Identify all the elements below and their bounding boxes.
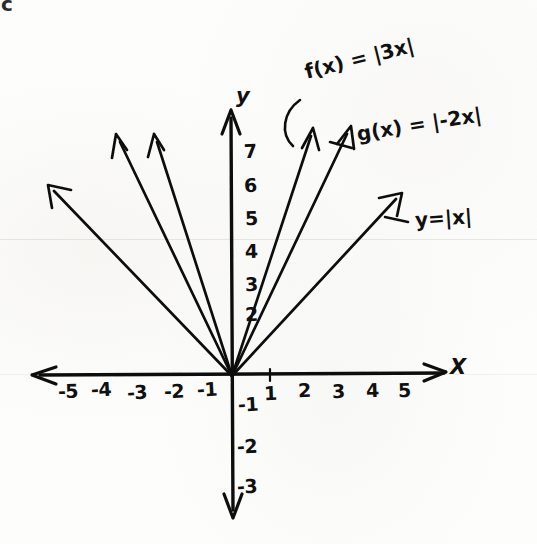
y-tick-neg-1: -1 — [238, 394, 259, 414]
leader-f — [285, 100, 300, 146]
x-tick-neg-4: -4 — [91, 379, 112, 399]
y-tick-2: 2 — [245, 305, 258, 324]
leader-yabs — [385, 217, 408, 222]
y-tick-3: 3 — [245, 275, 258, 294]
ray-y-left — [48, 185, 232, 376]
x-tick-4: 4 — [366, 381, 379, 400]
x-axis-label: X — [450, 357, 466, 378]
ray-f-left — [112, 134, 232, 376]
y-axis-label: y — [236, 86, 250, 107]
y-tick-neg-3: -3 — [237, 476, 258, 496]
x-tick-1: 1 — [264, 384, 277, 403]
x-tick-3: 3 — [332, 382, 345, 401]
y-tick-5: 5 — [245, 209, 258, 228]
graph-page: c — [0, 0, 537, 544]
y-tick-7: 7 — [244, 142, 258, 162]
x-tick-5: 5 — [398, 381, 411, 400]
x-tick-neg-5: -5 — [58, 382, 79, 402]
x-tick-neg-1: -1 — [197, 379, 218, 399]
x-tick-neg-3: -3 — [126, 382, 147, 402]
ray-g-left — [148, 134, 232, 376]
graph-canvas — [0, 0, 537, 544]
annotation-y-abs-x: y=|x| — [414, 206, 473, 230]
x-tick-neg-2: -2 — [164, 382, 185, 402]
y-tick-4: 4 — [245, 242, 258, 261]
x-tick-2: 2 — [298, 381, 311, 400]
y-tick-6: 6 — [244, 176, 257, 195]
y-tick-neg-2: -2 — [237, 436, 258, 456]
